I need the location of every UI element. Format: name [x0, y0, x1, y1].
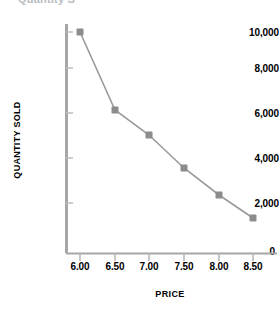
data-point-5: [216, 192, 223, 199]
demand-curve-line: [80, 32, 253, 218]
data-point-1: [77, 29, 84, 36]
plot-area: 10,000 8,000 6,000 4,000 2,000 0 6.00 6.…: [0, 0, 279, 312]
data-point-3: [146, 132, 153, 139]
data-point-6: [250, 215, 257, 222]
chart-page: Quantity S 10,000 8,000 6,000 4,000 2,00…: [0, 0, 279, 312]
chart-svg: [0, 0, 279, 312]
data-point-markers: [77, 29, 257, 222]
data-point-4: [181, 165, 188, 172]
data-point-2: [112, 107, 119, 114]
